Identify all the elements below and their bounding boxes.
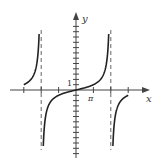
y-arrow-icon [73, 12, 79, 20]
one-tick-label: 1 [67, 79, 72, 88]
pi-tick-label: π [87, 94, 94, 103]
axes [10, 12, 150, 158]
left-branch [24, 34, 39, 85]
x-axis-label: x [146, 93, 152, 104]
right-branch [113, 95, 128, 146]
tangent-graph: y x π 1 [0, 0, 161, 161]
y-axis-label: y [81, 13, 88, 24]
chart-canvas: y x π 1 [0, 0, 161, 161]
